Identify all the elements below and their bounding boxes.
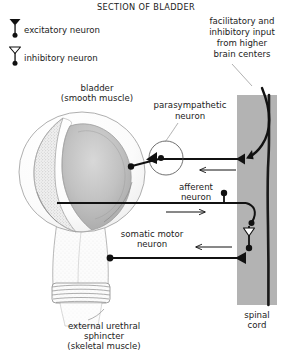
bladder-label: bladder (81, 83, 114, 93)
somatic-motor-pathway (107, 252, 246, 264)
bladder-innervation-figure: SECTION OF BLADDER excitatory neuron inh… (0, 0, 292, 356)
afferent-cell-body (221, 190, 227, 196)
parasympathetic-leader-line (165, 123, 178, 142)
higher-centers-label-line4: brain centers (214, 49, 271, 59)
somatic-label-line2: neuron (137, 239, 167, 249)
sphincter-label-line1: external urethral (68, 321, 140, 331)
spinal-cord-label-line2: cord (248, 320, 267, 330)
afferent-label-line2: neuron (181, 192, 211, 202)
higher-centers-label-line3: from higher (217, 38, 268, 48)
spinal-cord (237, 95, 277, 305)
legend: excitatory neuron inhibitory neuron (10, 19, 101, 66)
external-urethral-sphincter (52, 283, 110, 303)
spinal-cord-band (237, 95, 277, 305)
sphincter-label-line3: (skeletal muscle) (67, 341, 140, 351)
afferent-terminal-dot (249, 220, 255, 226)
sphincter-label-line2: sphincter (84, 331, 125, 341)
spinal-cord-label-line1: spinal (244, 310, 269, 320)
legend-label-inhibitory: inhibitory neuron (24, 53, 98, 63)
higher-centers-label-line2: inhibitory input (209, 27, 275, 37)
figure-canvas: SECTION OF BLADDER excitatory neuron inh… (0, 0, 292, 356)
bladder-organ (19, 112, 145, 326)
figure-title: SECTION OF BLADDER (97, 2, 195, 12)
parasympathetic-label-line1: parasympathetic (154, 100, 227, 110)
bladder-sublabel: (smooth muscle) (61, 93, 133, 103)
higher-centers-label-line1: facilitatory and (210, 16, 275, 26)
afferent-label-line1: afferent (179, 182, 214, 192)
parasympathetic-label-line2: neuron (175, 111, 205, 121)
motoneuron-cell-body (246, 245, 252, 251)
bladder-wall-effector-dot (128, 163, 134, 169)
somatic-label-line1: somatic motor (121, 229, 184, 239)
higher-centers-leader-line (232, 64, 252, 86)
inhibitory-synapse-icon (10, 47, 21, 66)
ganglion-cell-body (158, 155, 164, 161)
neuromuscular-junction-dot (107, 255, 114, 262)
excitatory-synapse-icon (10, 19, 21, 38)
legend-label-excitatory: excitatory neuron (24, 25, 100, 35)
